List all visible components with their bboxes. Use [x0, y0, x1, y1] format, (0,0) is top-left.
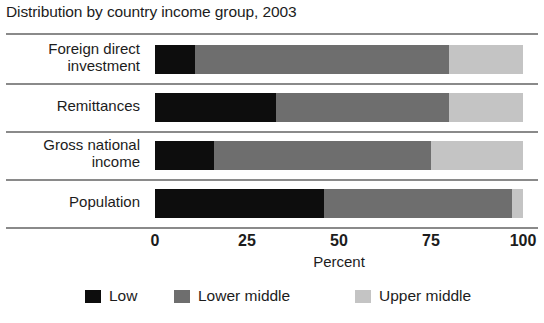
- bar-row: Gross national income: [0, 131, 544, 179]
- bar-row-label-line1: Gross national: [0, 136, 140, 153]
- stacked-bar-chart: Distribution by country income group, 20…: [0, 0, 544, 323]
- bar-segment-low: [155, 45, 195, 74]
- x-tick-0: 0: [151, 232, 160, 250]
- bar-track: [155, 45, 523, 74]
- bar-segment-lower-middle: [324, 189, 512, 218]
- plot-area: Foreign direct investment Remittances: [0, 33, 544, 230]
- legend-label-lower-middle: Lower middle: [198, 287, 290, 305]
- legend-label-low: Low: [109, 287, 137, 305]
- bar-row: Population: [0, 179, 544, 227]
- bar-row-label: Remittances: [0, 97, 140, 114]
- bar-track: [155, 189, 523, 218]
- bar-track: [155, 141, 523, 170]
- bar-segment-low: [155, 93, 276, 122]
- legend-swatch-low-icon: [85, 290, 101, 303]
- bar-segment-upper-middle: [449, 93, 523, 122]
- chart-title: Distribution by country income group, 20…: [6, 3, 296, 21]
- bar-row: Foreign direct investment: [0, 35, 544, 83]
- bar-segment-lower-middle: [276, 93, 449, 122]
- bar-track: [155, 93, 523, 122]
- bar-segment-upper-middle: [512, 189, 523, 218]
- bar-segment-upper-middle: [449, 45, 523, 74]
- bar-row: Remittances: [0, 83, 544, 131]
- x-axis-title: Percent: [313, 253, 365, 270]
- legend-item-upper-middle: Upper middle: [355, 286, 471, 306]
- legend-label-upper-middle: Upper middle: [379, 287, 471, 305]
- bar-segment-lower-middle: [214, 141, 431, 170]
- legend-swatch-lower-middle-icon: [174, 290, 190, 303]
- x-tick-25: 25: [238, 232, 256, 250]
- x-tick-75: 75: [422, 232, 440, 250]
- bar-row-label-line2: income: [0, 153, 140, 170]
- bar-segment-lower-middle: [195, 45, 449, 74]
- bar-row-label: Foreign direct investment: [0, 40, 140, 74]
- bar-row-label-line1: Foreign direct: [0, 40, 140, 57]
- x-tick-100: 100: [510, 232, 537, 250]
- bar-segment-low: [155, 189, 324, 218]
- legend-swatch-upper-middle-icon: [355, 290, 371, 303]
- bar-segment-upper-middle: [431, 141, 523, 170]
- bar-row-label: Population: [0, 193, 140, 210]
- bar-row-label: Gross national income: [0, 136, 140, 170]
- bar-row-label-line1: Population: [0, 193, 140, 210]
- chart-legend: Low Lower middle Upper middle: [0, 286, 544, 310]
- x-tick-50: 50: [330, 232, 348, 250]
- bar-row-label-line1: Remittances: [0, 97, 140, 114]
- bar-segment-low: [155, 141, 214, 170]
- x-axis: 0 25 50 75 100 Percent: [0, 232, 544, 276]
- bar-row-label-line2: investment: [0, 57, 140, 74]
- legend-item-lower-middle: Lower middle: [174, 286, 290, 306]
- row-divider: [6, 227, 538, 229]
- legend-item-low: Low: [85, 286, 137, 306]
